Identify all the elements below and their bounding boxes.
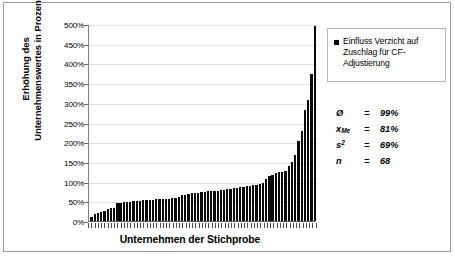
statistic-value: 68 bbox=[380, 156, 446, 166]
bar bbox=[107, 209, 109, 221]
statistic-symbol: xMe bbox=[336, 124, 364, 134]
bar bbox=[220, 190, 222, 221]
x-axis-tick-mark bbox=[186, 223, 187, 228]
y-axis-title: Erhöhung des Unternehmenswertes in Proze… bbox=[19, 0, 45, 179]
statistic-value: 81% bbox=[380, 124, 446, 134]
x-axis-tick-mark bbox=[95, 223, 96, 228]
bar bbox=[239, 187, 241, 221]
x-axis-tick-mark bbox=[140, 223, 141, 228]
bar bbox=[213, 191, 215, 221]
x-axis-tick-mark bbox=[244, 223, 245, 228]
bar bbox=[184, 195, 186, 221]
bar bbox=[97, 213, 99, 221]
x-axis-tick-mark bbox=[88, 223, 89, 228]
bar bbox=[142, 200, 144, 221]
bar bbox=[275, 173, 277, 221]
x-axis-tick-mark bbox=[150, 223, 151, 228]
plot-area bbox=[88, 25, 316, 222]
x-axis-tick-mark bbox=[264, 223, 265, 228]
x-axis-tick-mark bbox=[247, 223, 248, 228]
bar bbox=[103, 211, 105, 221]
bar bbox=[197, 193, 199, 221]
x-axis-tick-mark bbox=[143, 223, 144, 228]
x-axis-tick-mark bbox=[195, 223, 196, 228]
x-axis-tick-mark bbox=[101, 223, 102, 228]
x-axis-tick-mark bbox=[163, 223, 164, 228]
x-axis-tick-mark bbox=[108, 223, 109, 228]
bar bbox=[94, 214, 96, 221]
x-axis-tick-mark bbox=[153, 223, 154, 228]
y-axis-tick-labels: 500%450%400%350%300%250%200%150%100%50%0… bbox=[48, 25, 84, 222]
x-axis-tick-mark bbox=[156, 223, 157, 228]
x-axis-tick-mark bbox=[117, 223, 118, 228]
bar bbox=[152, 200, 154, 221]
bar bbox=[268, 176, 270, 221]
y-axis-tick-label: 250% bbox=[50, 119, 84, 128]
bar bbox=[123, 202, 125, 221]
x-axis-tick-mark bbox=[254, 223, 255, 228]
bar bbox=[113, 208, 115, 221]
bar bbox=[149, 200, 151, 221]
x-axis-tick-mark bbox=[179, 223, 180, 228]
bar-series bbox=[89, 25, 317, 221]
bar bbox=[210, 191, 212, 221]
x-axis-tick-mark bbox=[215, 223, 216, 228]
bar bbox=[310, 74, 312, 221]
x-axis-tick-mark bbox=[169, 223, 170, 228]
statistic-superscript: 2 bbox=[341, 139, 345, 146]
x-axis-tick-mark bbox=[238, 223, 239, 228]
bar bbox=[110, 208, 112, 221]
x-axis-title: Unternehmen der Stichprobe bbox=[60, 234, 320, 245]
bar bbox=[194, 193, 196, 221]
bar bbox=[259, 184, 261, 221]
statistic-row: s2=69% bbox=[336, 139, 446, 150]
x-axis-tick-mark bbox=[251, 223, 252, 228]
x-axis-tick-mark bbox=[257, 223, 258, 228]
chart-figure: Erhöhung des Unternehmenswertes in Proze… bbox=[0, 0, 455, 269]
y-axis-tick-label: 450% bbox=[50, 40, 84, 49]
x-axis-tick-mark bbox=[202, 223, 203, 228]
x-axis-tick-mark bbox=[189, 223, 190, 228]
bar bbox=[207, 191, 209, 221]
x-axis-tick-mark bbox=[277, 223, 278, 228]
x-axis-tick-mark bbox=[173, 223, 174, 228]
x-axis-tick-mark bbox=[137, 223, 138, 228]
chart-legend: Einfluss Verzicht auf Zuschlag für CF-Ad… bbox=[327, 28, 446, 82]
bar bbox=[200, 192, 202, 221]
x-axis-tick-mark bbox=[205, 223, 206, 228]
statistic-equals: = bbox=[364, 140, 380, 150]
bar bbox=[162, 199, 164, 221]
y-axis-tick-label: 150% bbox=[50, 158, 84, 167]
bar bbox=[271, 175, 273, 221]
bar bbox=[294, 155, 296, 221]
bar bbox=[226, 189, 228, 221]
bar bbox=[174, 198, 176, 221]
bar bbox=[191, 193, 193, 221]
x-axis-tick-mark bbox=[316, 223, 317, 228]
statistic-row: xMe=81% bbox=[336, 124, 446, 134]
bar bbox=[242, 187, 244, 221]
x-axis-tick-mark bbox=[303, 223, 304, 228]
bar bbox=[233, 188, 235, 221]
bar bbox=[307, 100, 309, 221]
bar bbox=[155, 199, 157, 221]
x-axis-tick-mark bbox=[114, 223, 115, 228]
bar bbox=[132, 201, 134, 221]
y-axis-title-line-2: Unternehmenswertes in Prozent bbox=[32, 0, 44, 141]
statistic-row: Ø=99% bbox=[336, 108, 446, 118]
x-axis-tick-mark bbox=[309, 223, 310, 228]
x-axis-tick-mark bbox=[98, 223, 99, 228]
bar bbox=[281, 172, 283, 221]
x-axis-tick-mark bbox=[234, 223, 235, 228]
bar bbox=[229, 189, 231, 221]
bar bbox=[204, 192, 206, 221]
x-axis-tick-mark bbox=[130, 223, 131, 228]
x-axis-tick-mark bbox=[299, 223, 300, 228]
bar bbox=[119, 203, 121, 221]
bar bbox=[291, 162, 293, 221]
y-axis-title-line-1: Erhöhung des bbox=[20, 37, 32, 100]
x-axis-tick-mark bbox=[192, 223, 193, 228]
x-axis-tick-mark bbox=[225, 223, 226, 228]
x-axis-tick-mark bbox=[124, 223, 125, 228]
bar bbox=[252, 185, 254, 221]
